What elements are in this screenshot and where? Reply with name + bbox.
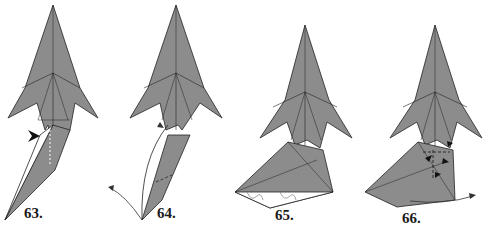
step-number: 63. [24, 205, 43, 222]
step-64: 64. [100, 0, 230, 231]
step-66: 66. [355, 0, 484, 231]
step-65-figure [225, 0, 355, 231]
step-65: 65. [225, 0, 355, 231]
step-number: 66. [402, 210, 421, 227]
swing-arrow-icon [469, 193, 476, 199]
step-64-figure [100, 0, 230, 231]
swing-arrow-icon [108, 185, 114, 191]
step-number: 64. [157, 205, 176, 222]
step-number: 65. [275, 207, 294, 224]
step-66-figure [355, 0, 484, 231]
